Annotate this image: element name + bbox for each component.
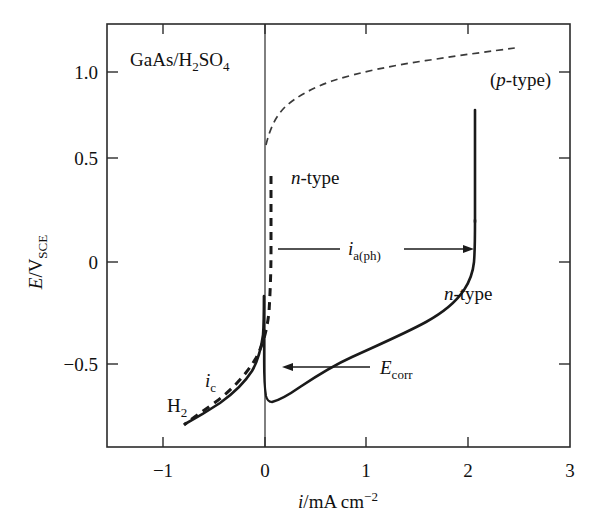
x-axis-title: i/mA cm−2 <box>298 489 378 512</box>
ic-subscript: c <box>210 380 216 395</box>
p-type-italic-p: p <box>494 69 506 90</box>
h2-symbol: H <box>167 395 181 416</box>
curve-n-type-dark-dashed <box>184 176 271 425</box>
n-type-dark-rest: -type <box>301 167 340 188</box>
x-tick-label-1: 1 <box>361 460 371 481</box>
h2-label: H2 <box>167 395 187 420</box>
y-tick-label-0.5: 0.5 <box>74 148 98 169</box>
n-type-dark-label: n-type <box>291 167 340 188</box>
y-axis-ticks-right <box>559 72 570 364</box>
y-axis-title-symbol: E <box>25 277 46 290</box>
y-axis-title-subscript: SCE <box>35 235 50 259</box>
curve-p-type-dashed <box>266 48 515 145</box>
figure-container: 1.0 0.5 0 −0.5 −1 0 1 2 3 GaAs/H2SO4 (p-… <box>0 0 605 524</box>
ia-ph-subscript: a(ph) <box>353 248 380 263</box>
x-axis-ticks-top <box>163 24 468 34</box>
n-type-photo-rest: -type <box>454 283 493 304</box>
x-axis-title-unit: /mA cm <box>303 491 364 512</box>
ecorr-label: Ecorr <box>379 357 413 382</box>
ia-ph-label: ia(ph) <box>348 238 381 263</box>
x-tick-label-2: 2 <box>463 460 473 481</box>
h2-subscript: 2 <box>181 405 188 420</box>
n-type-dark-italic-n: n <box>291 167 301 188</box>
x-axis-ticks <box>163 437 468 447</box>
x-tick-label-3: 3 <box>565 460 575 481</box>
y-tick-labels: 1.0 0.5 0 −0.5 <box>64 62 98 375</box>
y-axis-title: E/VSCE <box>25 235 50 291</box>
y-axis-ticks <box>107 72 118 364</box>
y-axis-title-unit: /V <box>25 258 46 277</box>
ecorr-subscript: corr <box>392 367 414 382</box>
y-tick-label--0.5: −0.5 <box>64 354 98 375</box>
n-type-photo-label: n-type <box>444 283 493 304</box>
ic-label: ic <box>205 370 216 395</box>
n-type-photo-italic-n: n <box>444 283 454 304</box>
y-tick-label-0: 0 <box>89 252 99 273</box>
plot-title-sub-4: 4 <box>223 59 230 74</box>
plot-title: GaAs/H2SO4 <box>130 49 230 74</box>
ia-ph-arrowhead <box>463 245 474 253</box>
x-tick-label-0: 0 <box>260 460 270 481</box>
x-axis-title-exponent: −2 <box>364 489 378 504</box>
plot-title-so: SO <box>199 49 223 70</box>
ecorr-arrowhead <box>282 363 293 371</box>
p-type-label: (p-type) <box>490 69 551 91</box>
x-tick-label--1: −1 <box>153 460 173 481</box>
polarization-curve-chart: 1.0 0.5 0 −0.5 −1 0 1 2 3 GaAs/H2SO4 (p-… <box>0 0 605 524</box>
curve-n-type-cathodic <box>185 296 264 424</box>
y-tick-label-1.0: 1.0 <box>74 62 98 83</box>
ecorr-symbol: E <box>379 357 392 378</box>
p-type-rest: -type) <box>506 69 551 91</box>
x-tick-labels: −1 0 1 2 3 <box>153 460 575 481</box>
plot-title-gaas: GaAs/H <box>130 49 193 70</box>
